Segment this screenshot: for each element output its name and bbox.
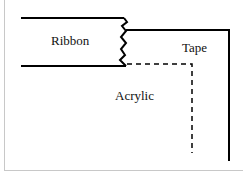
tape-label: Tape (182, 40, 207, 56)
torn-edge (120, 18, 127, 66)
acrylic-outline (127, 64, 192, 153)
ribbon-label: Ribbon (51, 33, 89, 49)
acrylic-label: Acrylic (115, 88, 154, 104)
diagram-canvas (0, 0, 243, 174)
